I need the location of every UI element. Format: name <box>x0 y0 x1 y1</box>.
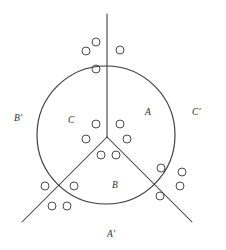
marker-bl-1 <box>41 182 49 190</box>
ray-group <box>22 14 192 222</box>
marker-bl-3 <box>48 202 56 210</box>
marker-br-4 <box>156 192 164 200</box>
marker-br-2 <box>178 168 186 176</box>
marker-top-1 <box>92 38 100 46</box>
diagram-svg <box>0 0 226 250</box>
label-C-prime: C′ <box>192 108 201 118</box>
marker-top-2 <box>82 47 90 55</box>
marker-mid-6 <box>112 151 120 159</box>
marker-mid-1 <box>92 120 100 128</box>
marker-bl-2 <box>70 182 78 190</box>
label-B-prime: B′ <box>14 114 22 124</box>
ray-lower-right-line <box>107 137 192 222</box>
marker-br-3 <box>176 182 184 190</box>
label-A-prime: A′ <box>107 230 115 240</box>
marker-mid-2 <box>116 120 124 128</box>
marker-top-3 <box>116 46 124 54</box>
label-A: A <box>145 108 151 118</box>
boundary-circle <box>37 66 175 204</box>
marker-br-1 <box>157 164 165 172</box>
marker-mid-3 <box>82 135 90 143</box>
label-B: B <box>112 181 118 191</box>
figure-canvas: A B C A′ B′ C′ <box>0 0 226 250</box>
marker-mid-5 <box>97 151 105 159</box>
marker-mid-4 <box>123 135 131 143</box>
marker-bl-4 <box>63 202 71 210</box>
label-C: C <box>68 116 75 126</box>
